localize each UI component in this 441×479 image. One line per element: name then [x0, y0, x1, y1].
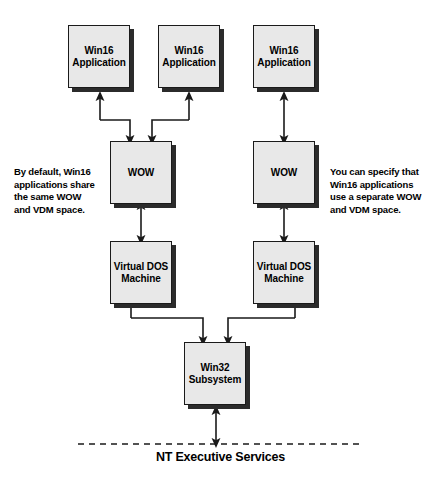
- connector-app2-to-wow: [152, 120, 189, 140]
- node-win16-application-1: Win16 Application: [68, 25, 130, 88]
- annotation-line: By default, Win16: [14, 166, 112, 179]
- node-win32-subsystem: Win32 Subsystem: [184, 342, 246, 405]
- annotation-text: WOW: [394, 191, 421, 202]
- node-label: Win16 Application: [70, 45, 127, 69]
- connector-vdm-separate-to-win32: [228, 318, 295, 341]
- annotation-line: Win16 applications: [330, 179, 438, 192]
- annotation-emphasis: separate: [356, 191, 394, 202]
- node-label: Win32 Subsystem: [187, 362, 243, 386]
- connector-layer: [0, 0, 441, 479]
- node-label: WOW: [126, 167, 156, 179]
- connector-app1-to-wow: [100, 120, 130, 140]
- annotation-line: use a separate WOW: [330, 191, 438, 204]
- node-label: Win16 Application: [160, 45, 217, 69]
- annotation-separate-wow: You can specify that Win16 applications …: [330, 166, 438, 216]
- annotation-line: You can specify that: [330, 166, 438, 179]
- connector-vdm-shared-to-win32: [131, 318, 203, 341]
- annotation-shared-wow: By default, Win16 applications share the…: [14, 166, 112, 216]
- annotation-text: use a: [330, 191, 356, 202]
- node-virtual-dos-machine-separate: Virtual DOS Machine: [253, 241, 315, 304]
- node-wow-separate: WOW: [253, 141, 315, 204]
- node-label: Virtual DOS Machine: [255, 261, 313, 285]
- node-win16-application-3: Win16 Application: [253, 25, 315, 88]
- node-label: Win16 Application: [255, 45, 312, 69]
- node-wow-shared: WOW: [110, 141, 172, 204]
- node-win16-application-2: Win16 Application: [158, 25, 220, 88]
- annotation-line: applications share: [14, 179, 112, 192]
- node-label: WOW: [269, 167, 299, 179]
- annotation-line: and VDM space.: [330, 204, 438, 217]
- node-virtual-dos-machine-shared: Virtual DOS Machine: [110, 241, 172, 304]
- annotation-line: and VDM space.: [14, 204, 112, 217]
- annotation-line: the same WOW: [14, 191, 112, 204]
- architecture-diagram: Win16 Application Win16 Application Win1…: [0, 0, 441, 479]
- node-label: Virtual DOS Machine: [112, 261, 170, 285]
- nt-executive-services-label: NT Executive Services: [0, 450, 441, 464]
